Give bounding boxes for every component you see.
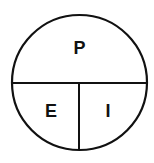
section-label-bottom-left: E <box>45 101 57 121</box>
section-label-top: P <box>73 38 85 58</box>
pei-circle-diagram: P E I <box>0 0 154 163</box>
section-label-bottom-right: I <box>105 101 110 121</box>
